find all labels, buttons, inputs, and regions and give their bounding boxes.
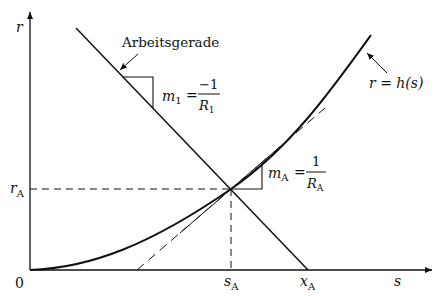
slope-a-den: R — [306, 176, 317, 191]
working-line-pointer — [120, 54, 138, 70]
curve-label-eq: = — [376, 75, 397, 91]
r-a-label: rA — [10, 180, 25, 199]
svg-text:R1: R1 — [198, 98, 215, 115]
svg-text:m1: m1 — [162, 88, 182, 106]
x-a-label: xA — [300, 273, 316, 292]
x-a-sub: A — [307, 281, 316, 292]
slope-a-formula: mA = 1 RA — [268, 154, 326, 193]
slope-1-formula: m1 = −1 R1 — [162, 77, 220, 115]
curve-label-fn: h(s) — [396, 75, 423, 91]
s-a-main: s — [224, 273, 231, 289]
x-axis-label: s — [394, 273, 401, 289]
curve-pointer — [367, 53, 387, 73]
working-line-label: Arbeitsgerade — [121, 34, 219, 50]
x-a-main: x — [300, 273, 308, 289]
slope-a-m-sub: A — [280, 172, 289, 183]
slope-1-eq: = — [186, 87, 198, 103]
characteristic-curve — [30, 35, 371, 270]
slope-1-m-sub: 1 — [175, 95, 181, 106]
slope-1-num: −1 — [199, 77, 218, 92]
curve-label: r = h(s) — [369, 75, 423, 91]
svg-text:RA: RA — [306, 176, 324, 193]
slope-1-m: m — [162, 88, 175, 104]
working-line — [76, 28, 308, 270]
svg-text:mA: mA — [268, 165, 289, 183]
slope-1-den: R — [198, 98, 209, 113]
y-axis-label: r — [16, 19, 24, 35]
slope-a-num: 1 — [312, 154, 320, 169]
r-a-sub: A — [16, 188, 25, 199]
diagram-canvas: r s 0 rA sA xA Arbeitsgerade r = h(s) m1… — [0, 0, 443, 296]
slope-1-den-sub: 1 — [209, 105, 215, 115]
slope-a-m: m — [268, 165, 281, 181]
s-a-label: sA — [224, 273, 239, 292]
slope-a-eq: = — [294, 164, 306, 180]
slope-a-den-sub: A — [316, 183, 324, 193]
s-a-sub: A — [230, 281, 239, 292]
origin-label: 0 — [15, 275, 24, 291]
